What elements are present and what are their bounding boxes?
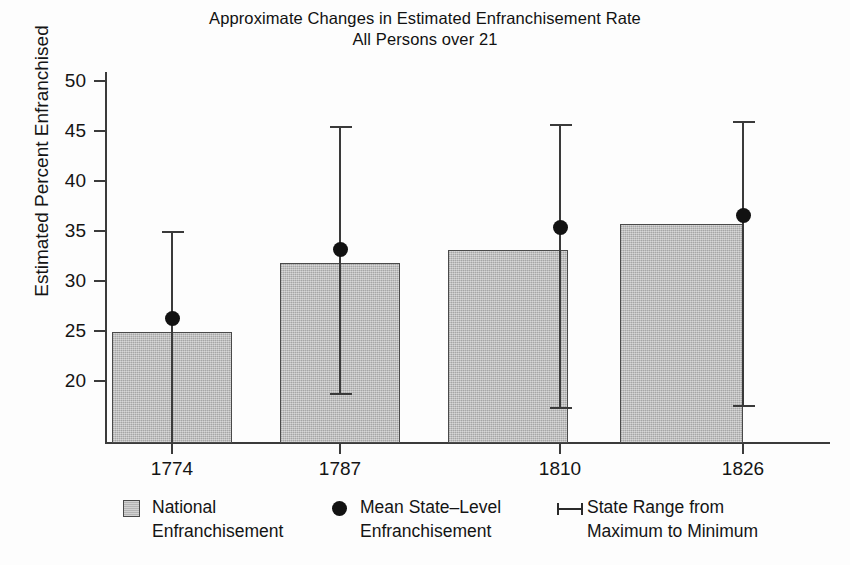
errorbar-line-1810 [559,124,561,409]
errorbar-cap-max-1810 [550,124,572,126]
x-tick-label-1787: 1787 [280,458,400,480]
y-tick-label-50: 50 [40,71,86,90]
mean-dot-1774[interactable] [165,311,180,326]
legend-item-national[interactable]: National Enfranchisement [122,495,283,543]
chart-page: Approximate Changes in Estimated Enfranc… [0,0,850,565]
x-tick-1826 [742,443,744,454]
errorbar-cap-max-1826 [733,121,755,123]
errorbar-cap-min-1787 [330,393,352,395]
x-tick-label-1774: 1774 [112,458,232,480]
y-tick-25 [94,330,106,332]
plot-area: Estimated Percent Enfranchised 20 25 30 … [0,0,850,480]
mean-dot-1787[interactable] [333,242,348,257]
legend-label-national-line1: National [152,495,283,519]
x-tick-label-1810: 1810 [500,458,620,480]
legend-label-state-range-line1: State Range from [587,495,758,519]
x-tick-1810 [559,443,561,454]
errorbar-line-1774 [171,231,173,443]
bar-1810[interactable] [448,250,568,443]
legend-dot-icon [330,498,354,516]
y-axis-line [105,72,107,444]
y-tick-label-25: 25 [40,321,86,340]
legend-label-state-range-line2: Maximum to Minimum [587,519,758,543]
y-tick-50 [94,80,106,82]
y-axis-title: Estimated Percent Enfranchised [31,25,52,296]
errorbar-line-1826 [742,121,744,407]
y-tick-20 [94,380,106,382]
legend-item-state-range[interactable]: State Range from Maximum to Minimum [557,495,758,543]
y-tick-label-40: 40 [40,171,86,190]
x-tick-1787 [339,443,341,454]
y-tick-label-35: 35 [40,221,86,240]
errorbar-cap-min-1826 [733,405,755,407]
errorbar-cap-max-1787 [330,126,352,128]
legend-label-national-line2: Enfranchisement [152,519,283,543]
legend-label-mean-state-line1: Mean State–Level [360,495,501,519]
y-tick-40 [94,180,106,182]
chart-legend: National Enfranchisement Mean State–Leve… [0,495,850,565]
y-tick-45 [94,130,106,132]
bar-1826[interactable] [620,224,743,443]
y-tick-label-30: 30 [40,271,86,290]
errorbar-cap-min-1810 [550,407,572,409]
y-tick-label-45: 45 [40,121,86,140]
y-tick-label-20: 20 [40,371,86,390]
errorbar-line-1787 [339,126,341,394]
legend-item-mean-state[interactable]: Mean State–Level Enfranchisement [330,495,501,543]
x-tick-label-1826: 1826 [683,458,803,480]
errorbar-cap-max-1774 [162,231,184,233]
legend-range-icon [557,498,581,516]
mean-dot-1810[interactable] [553,220,568,235]
y-tick-30 [94,280,106,282]
legend-swatch-icon [122,498,146,516]
x-tick-1774 [171,443,173,454]
legend-label-mean-state-line2: Enfranchisement [360,519,501,543]
y-tick-35 [94,230,106,232]
mean-dot-1826[interactable] [736,208,751,223]
